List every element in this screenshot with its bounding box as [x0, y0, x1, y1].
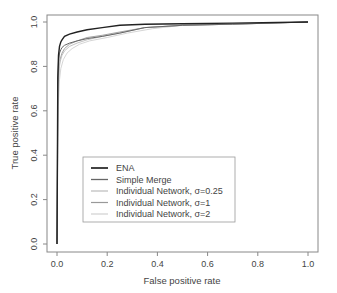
x-axis-label: False positive rate: [143, 275, 220, 286]
x-axis: 0.00.20.40.60.81.0: [51, 252, 315, 269]
x-tick-label: 0.6: [201, 259, 214, 269]
y-tick-label: 0.8: [29, 60, 39, 73]
y-tick-label: 0.2: [29, 193, 39, 206]
x-tick-label: 0.4: [151, 259, 164, 269]
legend: ENASimple MergeIndividual Network, σ=0.2…: [83, 157, 235, 222]
legend-entry: ENA: [116, 163, 135, 173]
x-tick-label: 0.8: [252, 259, 265, 269]
y-tick-label: 0.4: [29, 149, 39, 162]
x-tick-label: 0.0: [51, 259, 64, 269]
legend-entry: Individual Network, σ=1: [116, 198, 210, 208]
y-axis-label: True positive rate: [9, 96, 20, 169]
legend-entry: Individual Network, σ=2: [116, 209, 210, 219]
y-tick-label: 0.6: [29, 105, 39, 118]
legend-entry: Individual Network, σ=0.25: [116, 186, 223, 196]
x-tick-label: 0.2: [101, 259, 114, 269]
y-tick-label: 0.0: [29, 238, 39, 251]
y-tick-label: 1.0: [29, 16, 39, 29]
roc-chart: 0.00.20.40.60.81.0 0.00.20.40.60.81.0 Fa…: [0, 0, 337, 293]
y-axis: 0.00.20.40.60.81.0: [29, 16, 47, 251]
x-tick-label: 1.0: [302, 259, 315, 269]
legend-entry: Simple Merge: [116, 175, 172, 185]
